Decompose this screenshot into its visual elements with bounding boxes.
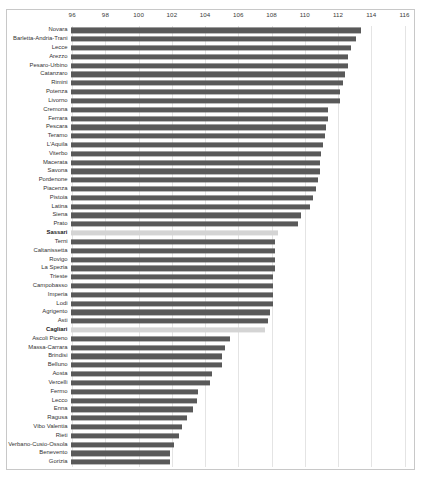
- bar-row[interactable]: La Spezia: [0, 264, 421, 273]
- bar[interactable]: [71, 310, 270, 315]
- bar[interactable]: [71, 213, 302, 218]
- bar-row[interactable]: Vibo Valentia: [0, 423, 421, 432]
- bar[interactable]: [71, 345, 226, 350]
- bar-row[interactable]: Gorizia: [0, 458, 421, 467]
- bar[interactable]: [71, 451, 171, 456]
- bar-row[interactable]: Latina: [0, 202, 421, 211]
- bar-row[interactable]: Barletta-Andria-Trani: [0, 35, 421, 44]
- bar[interactable]: [71, 45, 352, 50]
- bar[interactable]: [71, 380, 211, 385]
- bar-row[interactable]: Lodi: [0, 299, 421, 308]
- bar-row[interactable]: Pistoia: [0, 193, 421, 202]
- bar[interactable]: [71, 407, 194, 412]
- bar-row[interactable]: Pescara: [0, 123, 421, 132]
- bar-row[interactable]: Vercelli: [0, 379, 421, 388]
- bar-row[interactable]: Terni: [0, 238, 421, 247]
- bar[interactable]: [71, 186, 317, 191]
- bar[interactable]: [71, 424, 182, 429]
- bar-row[interactable]: Massa-Carrara: [0, 343, 421, 352]
- bar-row[interactable]: Prato: [0, 220, 421, 229]
- bar[interactable]: [71, 416, 187, 421]
- bar-row[interactable]: Aosta: [0, 370, 421, 379]
- bar-row[interactable]: Trieste: [0, 273, 421, 282]
- bar-row[interactable]: L'Aquila: [0, 141, 421, 150]
- bar-row[interactable]: Imperia: [0, 290, 421, 299]
- bar[interactable]: [71, 37, 357, 42]
- bar-row[interactable]: Novara: [0, 26, 421, 35]
- bar[interactable]: [71, 442, 174, 447]
- bar[interactable]: [71, 239, 275, 244]
- bar[interactable]: [71, 90, 340, 95]
- bar-row[interactable]: Viterbo: [0, 149, 421, 158]
- bar[interactable]: [71, 107, 329, 112]
- bar[interactable]: [71, 98, 340, 103]
- bar[interactable]: [71, 354, 222, 359]
- bar[interactable]: [71, 319, 269, 324]
- bar[interactable]: [71, 28, 362, 33]
- bar[interactable]: [71, 81, 344, 86]
- bar[interactable]: [71, 275, 274, 280]
- bar[interactable]: [71, 327, 265, 332]
- bar[interactable]: [71, 460, 171, 465]
- bar[interactable]: [71, 204, 310, 209]
- bar-row[interactable]: Pesaro-Urbino: [0, 61, 421, 70]
- bar-row[interactable]: Rovigo: [0, 255, 421, 264]
- bar-row[interactable]: Rieti: [0, 431, 421, 440]
- bar[interactable]: [71, 266, 275, 271]
- bar-row[interactable]: Campobasso: [0, 282, 421, 291]
- bar[interactable]: [71, 257, 275, 262]
- bar[interactable]: [71, 301, 274, 306]
- bar-row[interactable]: Arezzo: [0, 52, 421, 61]
- bar-row[interactable]: Cremona: [0, 105, 421, 114]
- bar-row[interactable]: Fermo: [0, 387, 421, 396]
- bar-row[interactable]: Ascoli Piceno: [0, 334, 421, 343]
- bar[interactable]: [71, 151, 322, 156]
- bar[interactable]: [71, 142, 324, 147]
- bar-row[interactable]: Catanzaro: [0, 70, 421, 79]
- bar-row[interactable]: Belluno: [0, 361, 421, 370]
- bar-row[interactable]: Lecce: [0, 44, 421, 53]
- bar-row[interactable]: Ferrara: [0, 114, 421, 123]
- bar-row[interactable]: Macerata: [0, 158, 421, 167]
- bar[interactable]: [71, 195, 314, 200]
- bar[interactable]: [71, 54, 349, 59]
- bar-row[interactable]: Verbano-Cusio-Ossola: [0, 440, 421, 449]
- bar[interactable]: [71, 125, 327, 130]
- bar-row[interactable]: Benevento: [0, 449, 421, 458]
- bar[interactable]: [71, 363, 222, 368]
- bar-row[interactable]: Sassari: [0, 229, 421, 238]
- bar-row[interactable]: Piacenza: [0, 185, 421, 194]
- bar[interactable]: [71, 160, 320, 165]
- bar-row[interactable]: Caltanissetta: [0, 246, 421, 255]
- bar-row[interactable]: Brindisi: [0, 352, 421, 361]
- bar-row[interactable]: Livorno: [0, 97, 421, 106]
- bar-row[interactable]: Savona: [0, 167, 421, 176]
- bar[interactable]: [71, 222, 299, 227]
- bar-row[interactable]: Pordenone: [0, 176, 421, 185]
- bar-row[interactable]: Asti: [0, 317, 421, 326]
- bar[interactable]: [71, 63, 349, 68]
- bar[interactable]: [71, 169, 320, 174]
- bar[interactable]: [71, 116, 329, 121]
- bar[interactable]: [71, 389, 199, 394]
- bar-row[interactable]: Agrigento: [0, 308, 421, 317]
- bar-row[interactable]: Rimini: [0, 79, 421, 88]
- bar[interactable]: [71, 433, 179, 438]
- bar[interactable]: [71, 372, 212, 377]
- bar[interactable]: [71, 292, 274, 297]
- bar[interactable]: [71, 178, 319, 183]
- bar[interactable]: [71, 231, 279, 236]
- bar[interactable]: [71, 283, 274, 288]
- bar[interactable]: [71, 72, 345, 77]
- bar-row[interactable]: Potenza: [0, 88, 421, 97]
- bar[interactable]: [71, 398, 197, 403]
- bar-row[interactable]: Siena: [0, 211, 421, 220]
- bar-row[interactable]: Cagliari: [0, 326, 421, 335]
- bar-row[interactable]: Lecco: [0, 396, 421, 405]
- bar-row[interactable]: Enna: [0, 405, 421, 414]
- bar-row[interactable]: Ragusa: [0, 414, 421, 423]
- bar[interactable]: [71, 336, 231, 341]
- bar[interactable]: [71, 248, 275, 253]
- bar[interactable]: [71, 134, 325, 139]
- bar-row[interactable]: Teramo: [0, 132, 421, 141]
